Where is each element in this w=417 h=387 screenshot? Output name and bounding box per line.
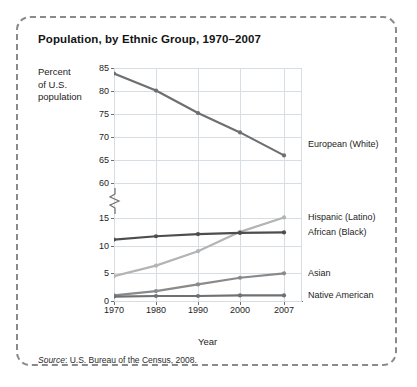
x-tick-mark [240,302,241,305]
source-text: : U.S. Bureau of the Census, 2008. [65,355,197,365]
data-point [238,130,242,134]
x-tick-mark [198,302,199,305]
y-tick-label: 70 [99,132,109,142]
data-point [238,231,242,235]
series-lines [114,68,302,302]
y-axis-label-line-1: Percent [38,66,104,79]
source-prefix: Source [38,355,65,365]
x-tick-mark [114,302,115,305]
y-tick-label: 65 [99,155,109,165]
x-tick-mark [284,302,285,305]
x-tick-label: 1990 [188,305,208,315]
x-tick-label: 2000 [230,305,250,315]
y-tick-label: 15 [99,213,109,223]
y-tick-label: 10 [99,241,109,251]
series-label: Asian [308,268,331,278]
series-line [114,217,284,276]
y-axis-label: Percent of U.S. population [38,66,104,104]
x-tick-label: 1980 [146,305,166,315]
data-point [196,232,200,236]
series-label: European (White) [308,139,379,149]
y-tick-label: 75 [99,109,109,119]
data-point [154,294,158,298]
data-point [282,153,286,157]
data-point [154,234,158,238]
plot-area: 858075706560151050 19701980199020002007 … [114,68,302,302]
y-tick-label: 5 [104,268,109,278]
figure-frame: Population, by Ethnic Group, 1970–2007 P… [16,16,397,366]
series-label: Native American [308,290,374,300]
data-point [114,237,116,241]
data-point [196,249,200,253]
x-tick-label: 2007 [274,305,294,315]
data-point [238,293,242,297]
source-note: Source: U.S. Bureau of the Census, 2008. [38,355,197,365]
y-axis-label-line-3: population [38,91,104,104]
data-point [196,282,200,286]
data-point [282,215,286,219]
x-tick-mark [156,302,157,305]
data-point [238,276,242,280]
chart-title: Population, by Ethnic Group, 1970–2007 [38,33,261,45]
series-label: Hispanic (Latino) [308,212,376,222]
data-point [196,294,200,298]
data-point [282,230,286,234]
data-point [154,88,158,92]
y-tick-label: 85 [99,63,109,73]
data-point [154,289,158,293]
y-tick-label: 80 [99,86,109,96]
x-axis-label-text: Year [198,336,217,347]
data-point [196,111,200,115]
data-point [282,271,286,275]
series-label: African (Black) [308,227,367,237]
y-axis-label-line-2: of U.S. [38,79,104,92]
x-tick-label: 1970 [104,305,124,315]
data-point [282,293,286,297]
y-tick-label: 60 [99,178,109,188]
data-point [154,263,158,267]
